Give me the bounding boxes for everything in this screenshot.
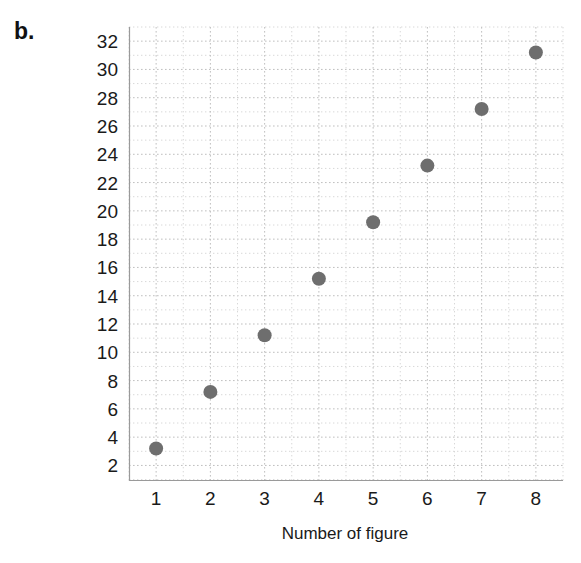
- data-point: [312, 272, 326, 286]
- data-points-layer: [129, 27, 563, 481]
- data-point: [529, 45, 543, 59]
- data-point: [203, 385, 217, 399]
- data-point: [420, 159, 434, 173]
- data-point: [475, 102, 489, 116]
- x-tick-label: 2: [195, 489, 225, 508]
- scatter-chart-figure: b. Number of tiles Number of figure 2468…: [0, 0, 581, 563]
- x-tick-label: 5: [358, 489, 388, 508]
- x-tick-label: 8: [521, 489, 551, 508]
- x-tick-label: 1: [141, 489, 171, 508]
- data-point: [258, 328, 272, 342]
- x-tick-label: 4: [304, 489, 334, 508]
- data-point: [366, 215, 380, 229]
- plot-area: [129, 27, 563, 481]
- data-point: [149, 441, 163, 455]
- x-tick-label: 6: [412, 489, 442, 508]
- x-tick-label: 7: [467, 489, 497, 508]
- x-tick-label: 3: [250, 489, 280, 508]
